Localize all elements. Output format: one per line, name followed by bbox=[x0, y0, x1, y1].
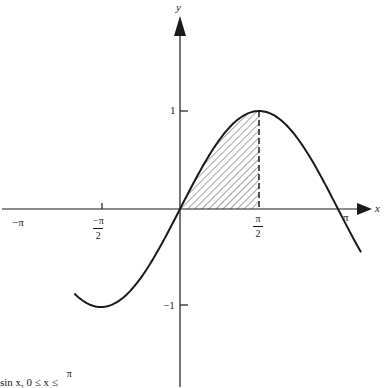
tick-label-y-1: 1 bbox=[170, 105, 176, 116]
y-axis-arrow-icon bbox=[174, 16, 186, 36]
x-axis-label: x bbox=[375, 203, 380, 214]
caption-frac-num: π bbox=[67, 368, 72, 379]
frac-bar bbox=[253, 226, 263, 227]
y-axis-label: y bbox=[176, 2, 181, 13]
tick-label-neg-pi: −π bbox=[12, 217, 24, 228]
frac-num: −π bbox=[93, 216, 104, 226]
frac-den: 2 bbox=[96, 231, 101, 241]
tick-label-neg-half-pi: −π 2 bbox=[93, 216, 104, 241]
figure-caption: sin x, 0 ≤ x ≤ π bbox=[0, 376, 72, 388]
caption-text: sin x, 0 ≤ x ≤ bbox=[0, 376, 58, 388]
tick-label-y-neg1: −1 bbox=[163, 300, 175, 311]
frac-den: 2 bbox=[256, 229, 261, 239]
shaded-area bbox=[180, 111, 259, 209]
tick-label-pi: π bbox=[343, 212, 349, 223]
frac-bar bbox=[93, 228, 103, 229]
tick-label-half-pi: π 2 bbox=[253, 214, 263, 239]
frac-num: π bbox=[255, 214, 260, 224]
x-axis-arrow-icon bbox=[357, 203, 372, 215]
